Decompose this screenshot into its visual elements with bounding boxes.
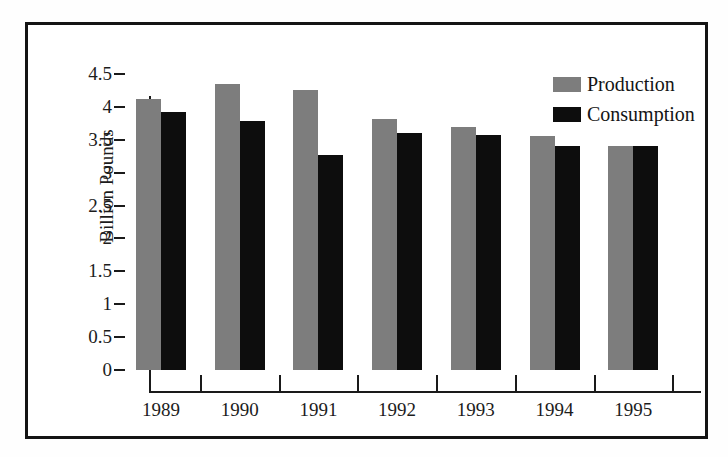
bar-production-1991 [293,90,318,370]
bar-consumption-1994 [555,146,580,370]
bar-production-1995 [608,146,633,370]
bar-consumption-1990 [240,121,265,370]
legend-swatch-production [553,77,581,92]
figure: Billion Pounds 00.511.522.533.544.5 1989… [0,0,728,457]
bar-production-1992 [372,119,397,370]
bar-production-1993 [451,127,476,370]
bar-consumption-1989 [161,112,186,370]
bar-consumption-1992 [397,133,422,370]
bar-production-1994 [530,136,555,370]
chart-frame: Billion Pounds 00.511.522.533.544.5 1989… [25,22,708,439]
bar-consumption-1993 [476,135,501,370]
legend-swatch-consumption [553,107,581,122]
legend-item-consumption: Consumption [553,99,695,129]
bar-consumption-1991 [318,155,343,370]
bar-production-1989 [136,99,161,370]
legend-label-production: Production [587,74,675,94]
legend-label-consumption: Consumption [587,104,695,124]
bar-production-1990 [215,84,240,370]
legend: ProductionConsumption [553,69,695,129]
bar-consumption-1995 [633,146,658,370]
legend-item-production: Production [553,69,695,99]
